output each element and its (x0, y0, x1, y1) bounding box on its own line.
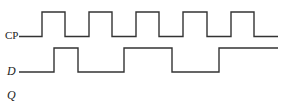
cp-waveform (19, 12, 278, 37)
d-waveform (19, 48, 278, 72)
timing-diagram: CP D Q (0, 0, 285, 112)
waveform-canvas (0, 0, 285, 112)
